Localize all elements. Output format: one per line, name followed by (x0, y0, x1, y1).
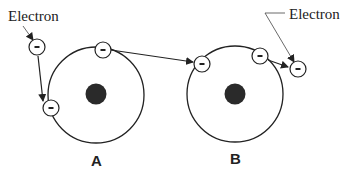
electron-b-top (252, 48, 268, 64)
electron-left-leader (23, 26, 33, 40)
atom-a-nucleus (86, 84, 107, 105)
electron-free-right (290, 61, 306, 77)
diagram-graphics (0, 0, 348, 176)
electron-a-left (43, 100, 59, 116)
atom-b-label: B (230, 151, 241, 166)
atom-b-nucleus (225, 84, 246, 105)
electron-label-right: Electron (289, 7, 340, 22)
arrow-b-out (268, 60, 288, 67)
electron-label-left: Electron (8, 9, 59, 24)
electron-transfer-diagram: Electron Electron A B (0, 0, 348, 176)
electron-a-top (95, 42, 111, 58)
atom-a-label: A (91, 153, 102, 168)
electron-free-left (29, 39, 45, 55)
arrow-free-to-a (38, 56, 43, 101)
electron-b-left (194, 56, 210, 72)
